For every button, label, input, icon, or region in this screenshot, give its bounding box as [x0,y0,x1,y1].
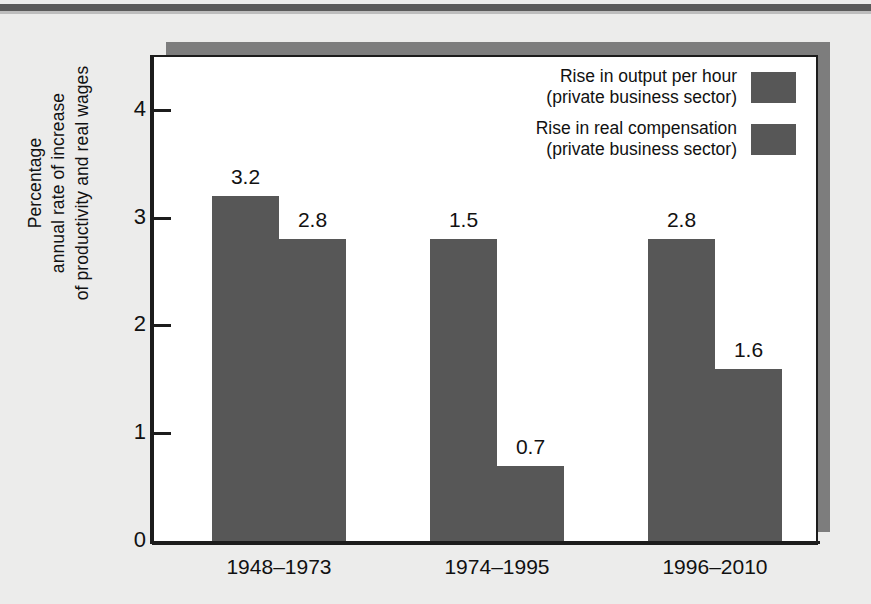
x-axis-line [150,541,820,544]
legend-label-real-compensation: Rise in real compensation (private busin… [536,118,751,161]
legend-label-real-compensation-line-2: (private business sector) [536,139,737,160]
bar [648,239,715,541]
x-axis-category-label: 1948–1973 [226,556,331,577]
bar-value-label: 1.6 [734,339,763,360]
legend-label-real-compensation-line-1: Rise in real compensation [536,118,737,139]
legend-swatch-real-compensation [751,124,796,155]
bar-value-label: 3.2 [231,166,260,187]
bar-value-label: 2.8 [298,209,327,230]
bar [212,196,279,541]
bar-value-label: 1.5 [449,209,478,230]
x-axis-category-label: 1974–1995 [444,556,549,577]
bar [279,239,346,541]
chart-legend: Rise in output per hour (private busines… [404,66,796,169]
legend-item-real-compensation: Rise in real compensation (private busin… [404,118,796,161]
legend-item-output-per-hour: Rise in output per hour (private busines… [404,66,796,109]
x-axis-category-label: 1996–2010 [662,556,767,577]
bar-value-label: 2.8 [667,209,696,230]
legend-label-output-per-hour-line-1: Rise in output per hour [546,66,737,87]
legend-label-output-per-hour: Rise in output per hour (private busines… [546,66,751,109]
bar [430,239,497,541]
bar [715,369,782,541]
bar [497,466,564,541]
legend-label-output-per-hour-line-2: (private business sector) [546,87,737,108]
bar-chart-figure: Percentage annual rate of increase of pr… [0,0,871,604]
legend-swatch-output-per-hour [751,72,796,103]
bar-value-label: 0.7 [516,436,545,457]
